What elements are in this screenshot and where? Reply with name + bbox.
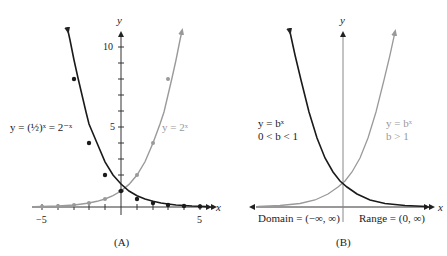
- curve-two-pow-x: [34, 31, 182, 207]
- x-tick-label-neg5: −5: [36, 214, 47, 226]
- y-tick-label-5: 5: [110, 121, 115, 133]
- decay-label-line1: y = bˣ: [258, 117, 284, 129]
- y-axis-arrow-icon: [118, 31, 124, 37]
- x-axis-label-b: x: [438, 201, 443, 213]
- x-axis-label-a: x: [216, 201, 221, 213]
- growth-label-line1: y = bˣ: [386, 117, 412, 129]
- curve-two-points: [40, 77, 170, 209]
- y-axis-arrow-icon: [340, 31, 346, 37]
- x-tick-label-5: 5: [197, 214, 202, 226]
- curve-two-label: y = 2ˣ: [162, 121, 188, 133]
- y-axis-label-a: y: [117, 14, 122, 26]
- caption-b: (B): [336, 236, 351, 248]
- y-tick-label-10: 10: [103, 41, 113, 53]
- curve-half-label: y = (½)ˣ = 2⁻ˣ: [10, 121, 72, 133]
- range-text: Range = (0, ∞): [359, 212, 425, 224]
- growth-label-line2: b > 1: [386, 130, 409, 142]
- decay-label-line2: 0 < b < 1: [258, 130, 298, 142]
- curve-half-points: [72, 77, 202, 209]
- y-axis-label-b: y: [340, 14, 345, 26]
- caption-a: (A): [114, 236, 129, 248]
- curve-half-pow-x: [68, 31, 206, 207]
- domain-text: Domain = (−∞, ∞): [258, 212, 340, 224]
